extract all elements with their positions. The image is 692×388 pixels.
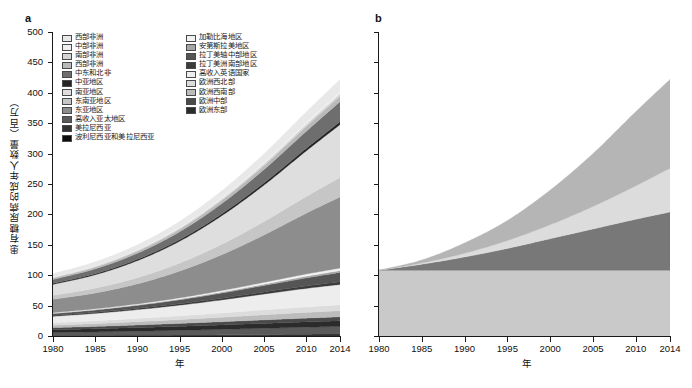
x-axis-tick-label: 1985 (75, 344, 115, 354)
legend-a-c2-item: 欧洲西北部 (186, 78, 257, 87)
legend-swatch-icon (62, 116, 72, 123)
x-axis-tick-label: 1980 (33, 344, 73, 354)
y-axis-line (52, 32, 53, 337)
x-axis-tick-label: 1990 (445, 344, 485, 354)
area-band (379, 270, 670, 336)
panel-b-label: b (375, 12, 382, 24)
legend-swatch-icon (62, 53, 72, 60)
x-axis-tick-label: 1995 (487, 344, 527, 354)
y-axis-tick (48, 214, 52, 215)
decomposition-area-regions (379, 32, 670, 336)
x-axis-tick (465, 337, 466, 342)
y-axis-tick-label: 250 (13, 179, 43, 189)
legend-swatch-icon (62, 135, 72, 142)
legend-label: 欧洲西南部 (199, 88, 236, 97)
panel-b: b 年 由于流行率的变化而产生的变化由于流行率的变化与人口规模和年龄结构的变化之… (352, 0, 692, 388)
x-axis-tick (550, 337, 551, 342)
y-axis-tick-label: 150 (13, 240, 43, 250)
x-axis-tick (340, 337, 341, 342)
y-axis-tick-label: 350 (13, 118, 43, 128)
panel-a-legend-column-1: 西部非洲中部非洲南部非洲西部非洲中东和北非中亚地区南亚地区东南亚地区东亚地区高收… (62, 33, 155, 142)
legend-swatch-icon (186, 89, 196, 96)
x-axis-tick (422, 337, 423, 342)
x-axis-tick (593, 337, 594, 342)
x-axis-tick (53, 337, 54, 342)
y-axis-tick (374, 336, 378, 337)
legend-a-c1-item: 东南亚地区 (62, 97, 155, 106)
legend-a-c1-item: 中亚地区 (62, 78, 155, 87)
legend-swatch-icon (186, 71, 196, 78)
x-axis-tick (137, 337, 138, 342)
legend-label: 东南亚地区 (75, 97, 112, 106)
x-axis-tick (180, 337, 181, 342)
x-axis-tick (264, 337, 265, 342)
legend-swatch-icon (62, 35, 72, 42)
y-axis-tick-label: 200 (13, 209, 43, 219)
y-axis-tick-label: 0 (13, 331, 43, 341)
y-axis-tick (374, 62, 378, 63)
y-axis-tick-label: 400 (13, 88, 43, 98)
y-axis-tick (48, 62, 52, 63)
x-axis-tick (95, 337, 96, 342)
y-axis-tick-label: 300 (13, 149, 43, 159)
panel-a-legend-column-2: 加勒比海地区安第斯拉美地区拉丁美轴中部地区拉丁美洲南部地区高收入英语国家欧洲西北… (186, 33, 257, 115)
legend-swatch-icon (62, 98, 72, 105)
y-axis-tick (48, 184, 52, 185)
legend-swatch-icon (186, 44, 196, 51)
x-axis-tick-label: 1980 (359, 344, 399, 354)
legend-swatch-icon (186, 53, 196, 60)
legend-swatch-icon (62, 62, 72, 69)
y-axis-tick (48, 123, 52, 124)
panel-b-plot-area (379, 32, 670, 336)
legend-a-c1-item: 波利尼西亚和美拉尼西亚 (62, 133, 155, 142)
x-axis-tick-label: 2000 (530, 344, 570, 354)
y-axis-tick (48, 245, 52, 246)
legend-swatch-icon (62, 125, 72, 132)
y-axis-tick-label: 500 (13, 27, 43, 37)
y-axis-tick (374, 154, 378, 155)
legend-swatch-icon (186, 80, 196, 87)
panel-a-label: a (25, 12, 31, 24)
legend-swatch-icon (62, 107, 72, 114)
y-axis-tick (374, 123, 378, 124)
x-axis-tick-label: 2000 (202, 344, 242, 354)
y-axis-tick (374, 214, 378, 215)
figure-root: a 患有糖尿病的成年人数量（百万） 年 西部非洲中部非洲南部非洲西部非洲中东和北… (0, 0, 692, 388)
legend-swatch-icon (62, 80, 72, 87)
x-axis-tick (222, 337, 223, 342)
y-axis-tick (374, 306, 378, 307)
legend-swatch-icon (186, 107, 196, 114)
legend-swatch-icon (186, 35, 196, 42)
legend-label: 南亚地区 (75, 88, 104, 97)
y-axis-tick-label: 50 (13, 301, 43, 311)
x-axis-tick-label: 2005 (573, 344, 613, 354)
y-axis-tick (48, 306, 52, 307)
legend-label: 欧洲中部 (199, 97, 228, 106)
panel-a: a 患有糖尿病的成年人数量（百万） 年 西部非洲中部非洲南部非洲西部非洲中东和北… (0, 0, 352, 388)
y-axis-tick (374, 184, 378, 185)
legend-label: 欧洲西北部 (199, 78, 236, 87)
y-axis-tick (48, 154, 52, 155)
legend-label: 波利尼西亚和美拉尼西亚 (75, 133, 155, 142)
legend-a-c1-item: 南亚地区 (62, 88, 155, 97)
panel-a-x-axis-title: 年 (150, 356, 210, 370)
x-axis-tick (670, 337, 671, 342)
x-axis-tick-label: 2005 (244, 344, 284, 354)
y-axis-tick (374, 32, 378, 33)
y-axis-line (378, 32, 379, 337)
legend-swatch-icon (62, 71, 72, 78)
y-axis-tick (374, 275, 378, 276)
x-axis-tick (507, 337, 508, 342)
x-axis-tick-label: 2014 (650, 344, 690, 354)
y-axis-tick (374, 93, 378, 94)
legend-swatch-icon (62, 44, 72, 51)
panel-b-x-axis-title: 年 (497, 356, 557, 370)
y-axis-tick (48, 93, 52, 94)
y-axis-tick (48, 32, 52, 33)
x-axis-tick (636, 337, 637, 342)
legend-swatch-icon (186, 98, 196, 105)
y-axis-tick (48, 275, 52, 276)
x-axis-tick-label: 1990 (117, 344, 157, 354)
legend-swatch-icon (186, 62, 196, 69)
x-axis-tick (306, 337, 307, 342)
